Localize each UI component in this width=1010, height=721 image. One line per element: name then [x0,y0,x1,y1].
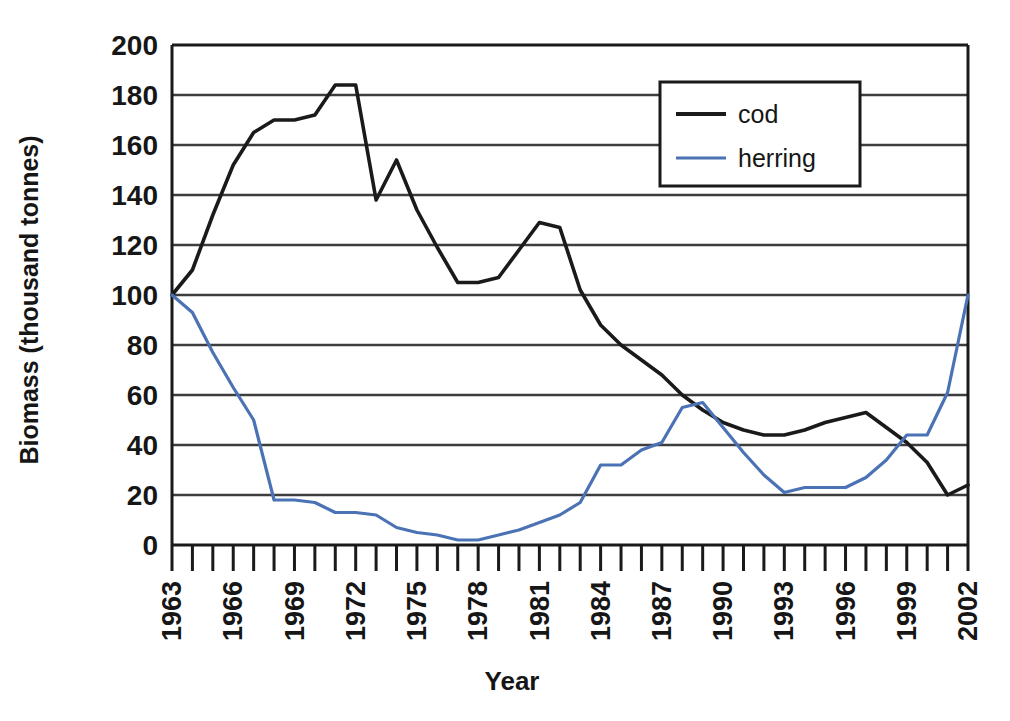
x-axis-tick-label: 1996 [831,581,861,641]
y-axis-tick-label: 80 [127,330,158,361]
y-axis-tick-label: 140 [111,180,158,211]
y-axis-tick-label: 160 [111,130,158,161]
y-axis-tick-label: 120 [111,230,158,261]
x-axis-tick-label: 1978 [463,581,493,641]
y-axis-tick-label: 200 [111,30,158,61]
x-axis-tick-label: 1987 [647,581,677,641]
x-axis-tick-label: 1990 [708,581,738,641]
x-axis-tick-label: 1972 [341,581,371,641]
biomass-line-chart: 1963196619691972197519781981198419871990… [0,0,1010,721]
x-axis-tick-label: 1975 [402,581,432,641]
x-axis-title: Year [485,666,540,696]
y-axis-tick-label: 0 [142,530,158,561]
x-axis-tick-label: 1984 [586,581,616,641]
y-axis-tick-label: 60 [127,380,158,411]
y-axis-tick-label: 100 [111,280,158,311]
legend-label-herring: herring [738,144,816,172]
legend-label-cod: cod [738,100,778,128]
y-axis-title: Biomass (thousand tonnes) [15,135,43,464]
x-axis-tick-label: 2002 [953,581,983,641]
y-axis-tick-label: 40 [127,430,158,461]
chart-legend: codherring [660,82,860,186]
x-axis-tick-label: 1993 [769,581,799,641]
x-axis-tick-label: 1999 [892,581,922,641]
y-axis-tick-label: 20 [127,480,158,511]
x-axis-tick-label: 1969 [280,581,310,641]
chart-figure: 1963196619691972197519781981198419871990… [0,0,1010,721]
x-axis-tick-label: 1966 [218,581,248,641]
x-axis-tick-label: 1981 [525,581,555,641]
y-axis-tick-label: 180 [111,80,158,111]
x-axis-tick-label: 1963 [157,581,187,641]
